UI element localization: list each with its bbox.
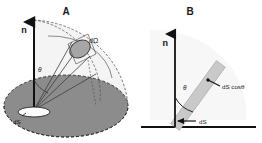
ds-label-b: dS xyxy=(199,118,207,125)
projected-area-label: dS cosθ xyxy=(222,83,245,90)
diagram-canvas: A n θ dΩ dS B n xyxy=(0,0,262,143)
theta-label-a: θ xyxy=(38,66,42,73)
panel-b-group: B n θ dS cosθ dS xyxy=(141,6,256,130)
normal-label-a: n xyxy=(21,25,27,35)
normal-label-b: n xyxy=(163,38,169,48)
theta-label-b: θ xyxy=(183,84,187,91)
panel-a-label: A xyxy=(62,6,69,17)
solid-angle-label: dΩ xyxy=(89,37,98,44)
ds-label-a: dS xyxy=(13,118,21,125)
panel-a-group: A n θ dΩ dS xyxy=(4,6,128,137)
panel-b-label: B xyxy=(186,6,193,17)
solid-angle-diagram: A n θ dΩ dS B n xyxy=(0,0,262,143)
